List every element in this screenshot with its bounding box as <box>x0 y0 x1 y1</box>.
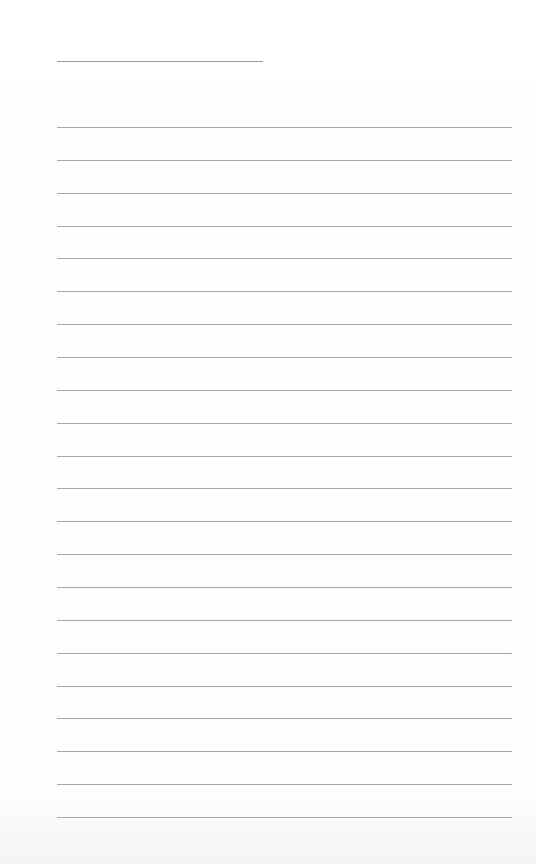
ruled-line <box>57 784 512 785</box>
ruled-line <box>57 127 512 128</box>
ruled-line <box>57 817 512 818</box>
ruled-line <box>57 718 512 719</box>
lined-paper-page <box>0 0 536 864</box>
title-underline <box>57 61 263 62</box>
ruled-line <box>57 456 512 457</box>
ruled-line <box>57 423 512 424</box>
ruled-line <box>57 160 512 161</box>
ruled-line <box>57 226 512 227</box>
ruled-line <box>57 620 512 621</box>
ruled-line <box>57 324 512 325</box>
ruled-line <box>57 554 512 555</box>
ruled-line <box>57 258 512 259</box>
ruled-line <box>57 751 512 752</box>
ruled-line <box>57 653 512 654</box>
ruled-line <box>57 488 512 489</box>
ruled-line <box>57 587 512 588</box>
ruled-line <box>57 390 512 391</box>
ruled-line <box>57 291 512 292</box>
ruled-line <box>57 686 512 687</box>
ruled-line <box>57 357 512 358</box>
ruled-line <box>57 521 512 522</box>
ruled-line <box>57 193 512 194</box>
